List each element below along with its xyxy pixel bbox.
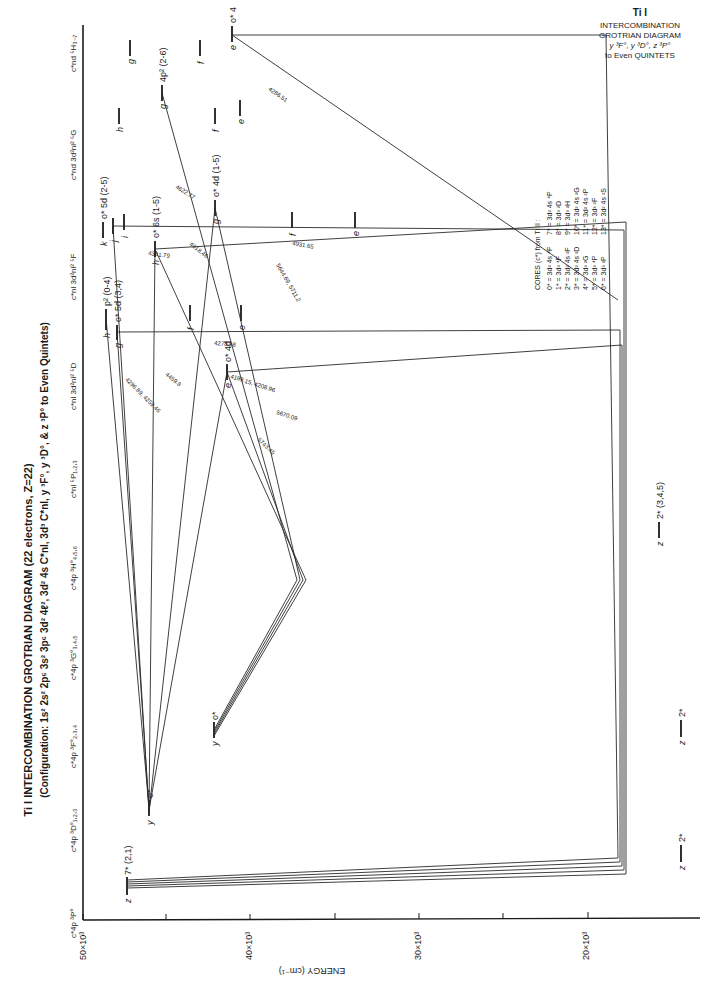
svg-text:CORES (c*) from Ti II :: CORES (c*) from Ti II :: [534, 219, 542, 290]
level-letter: e: [351, 231, 361, 236]
svg-text:4296.89, 4259.46: 4296.89, 4259.46: [124, 376, 162, 414]
svg-text:4918.46: 4918.46: [188, 241, 209, 259]
svg-text:4931.65: 4931.65: [292, 240, 315, 250]
level-config: 4p² (2-6): [158, 47, 168, 82]
figure-title: Ti I INTERCOMBINATION GROTRIAN DIAGRAM (…: [22, 463, 34, 816]
svg-text:3* = 3d² 4s ²D: 3* = 3d² 4s ²D: [573, 247, 580, 290]
level-config: o* 4d (1-5): [211, 154, 221, 197]
level-letter: y: [210, 741, 220, 747]
level-letter: f: [211, 128, 221, 132]
tick-label-40k: 40×10³: [244, 932, 254, 960]
svg-text:to Even QUINTETS: to Even QUINTETS: [605, 51, 675, 60]
svg-text:5743.45: 5743.45: [256, 436, 276, 456]
level-letter: h: [115, 127, 125, 132]
level-letter: z: [655, 541, 665, 547]
svg-text:y ³F°, y ³D°, z ³P°: y ³F°, y ³D°, z ³P°: [608, 41, 671, 50]
level-labels: z 7* (2,1) z 2* y o* z 2* y o* z 2* (3,4…: [99, 7, 687, 904]
column-header-5g: c*nd 3d²nl² ⁵G: [69, 130, 78, 180]
column-header-5f: c*nl 3d²nl² ⁵F: [69, 253, 78, 300]
level-letter: f: [196, 60, 206, 64]
tick-label-50k: 50×10³: [78, 932, 88, 960]
svg-text:10* = 3d² 4s ²G: 10* = 3d² 4s ²G: [573, 187, 580, 235]
level-letter: g: [211, 219, 221, 224]
grotrian-diagram: 50×10³ 40×10³ 30×10³ 20×10³ ENERGY (cm⁻¹…: [0, 0, 719, 1002]
svg-text:9* = 3d³ ²H: 9* = 3d³ ²H: [564, 201, 571, 235]
svg-text:5670.09: 5670.09: [276, 409, 299, 422]
level-letter: f: [288, 232, 298, 236]
svg-text:1* = 3d³ ⁴F: 1* = 3d³ ⁴F: [555, 256, 562, 290]
svg-text:13* = 3d² 4s ²S: 13* = 3d² 4s ²S: [600, 188, 607, 235]
level-letter: z: [677, 865, 687, 871]
svg-text:GROTRIAN DIAGRAM: GROTRIAN DIAGRAM: [599, 31, 681, 40]
level-letter: z: [677, 740, 687, 746]
figure-subtitle: (Configuration: 1s² 2s² 2p⁶ 3s² 3p⁶ 3d² …: [39, 322, 50, 798]
svg-text:INTERCOMBINATION: INTERCOMBINATION: [600, 21, 680, 30]
level-config: 2* (3,4,5): [655, 482, 665, 519]
cores-legend: CORES (c*) from Ti II : 0* = 3d² 4s ⁴F 1…: [534, 187, 607, 290]
svg-text:12* = 3d³ ²F: 12* = 3d³ ²F: [591, 198, 598, 235]
svg-text:6* = 3d³ ²P: 6* = 3d³ ²P: [600, 256, 607, 290]
svg-text:4286.51: 4286.51: [267, 86, 289, 104]
svg-text:4278.58: 4278.58: [214, 340, 237, 348]
level-letter: e: [236, 119, 246, 124]
svg-text:2* = 3d² 4s ²F: 2* = 3d² 4s ²F: [564, 247, 571, 290]
level-letter: e: [228, 45, 238, 50]
column-header-3f: c*4p ³F°₂,₃,₄: [69, 725, 78, 768]
column-headers: c*4p ³P° c*4p ³D°₁,₂,₃ c*4p ³F°₂,₃,₄ c*4…: [69, 34, 78, 938]
transition-lines: [106, 35, 626, 888]
svg-text:4459.8: 4459.8: [164, 371, 182, 388]
level-letter: i: [120, 235, 130, 238]
column-header-3g: c*4p ³G°₃,₄,₅: [69, 635, 78, 680]
level-config: 7* (2,1): [123, 845, 133, 875]
column-header-5d: c*nl 3d²nl² ⁵D: [69, 362, 78, 410]
wavelength-labels: 4286.51 4622.77 4918.46 4341.79 4931.65 …: [124, 86, 315, 456]
column-header-5h: c*nd ⁵H₃₋₇: [69, 34, 78, 72]
level-config: o* 6s (1-5): [151, 196, 161, 238]
level-letter: z: [123, 898, 133, 904]
svg-text:8* = 3d³ ²D: 8* = 3d³ ²D: [555, 201, 562, 235]
svg-text:0* = 3d² 4s ⁴F: 0* = 3d² 4s ⁴F: [546, 247, 553, 290]
energy-axis-label: ENERGY (cm⁻¹): [279, 966, 345, 976]
level-letter: k: [99, 241, 109, 246]
svg-text:4* = 3d³ ²G: 4* = 3d³ ²G: [582, 256, 589, 290]
svg-text:7* = 3d² 4s ⁴P: 7* = 3d² 4s ⁴P: [546, 191, 553, 235]
column-header-5p: c*nl ⁵P₁,₂,₃: [69, 460, 78, 498]
level-config: p² (0-4): [102, 276, 112, 306]
svg-text:11* = 3d² 4s ²P: 11* = 3d² 4s ²P: [582, 188, 589, 235]
svg-text:4622.77: 4622.77: [174, 184, 196, 201]
level-config: 2*: [677, 708, 687, 717]
tick-label-20k: 20×10³: [581, 932, 591, 960]
level-letter: g: [126, 59, 136, 64]
column-header-3d: c*4p ³D°₁,₂,₃: [69, 809, 78, 852]
tick-label-30k: 30×10³: [413, 932, 423, 960]
corner-title: Ti I INTERCOMBINATION GROTRIAN DIAGRAM y…: [599, 7, 681, 60]
level-config: 2*: [677, 833, 687, 842]
level-config: o* 4: [228, 7, 238, 23]
svg-text:5* = 3d³ ⁴P: 5* = 3d³ ⁴P: [591, 255, 598, 290]
level-config: o*: [210, 711, 220, 720]
level-config: o*: [145, 789, 155, 798]
column-header-3p: c*4p ³P°: [69, 909, 78, 938]
level-letter: y: [145, 820, 155, 826]
energy-levels: [103, 26, 681, 895]
svg-text:Ti I: Ti I: [633, 7, 647, 18]
energy-axis-line: [83, 918, 700, 920]
level-letter: h: [151, 260, 161, 265]
level-config: o* 5d (2-5): [99, 176, 109, 219]
column-header-3h: c*4p ³H°₄,₅,₆: [69, 546, 78, 590]
svg-text:5644.69, 5711.2: 5644.69, 5711.2: [275, 263, 302, 304]
